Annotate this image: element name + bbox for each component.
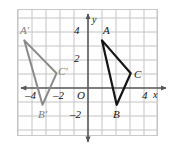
- origin-label: O: [77, 90, 85, 101]
- vertex-label-c: C: [134, 69, 141, 80]
- x-tick-label-4: 4: [142, 90, 148, 101]
- y-tick-label-2: 2: [74, 53, 80, 64]
- y-tick-label-neg2: –2: [70, 109, 81, 120]
- x-tick-label-neg4: –4: [25, 90, 36, 101]
- vertex-label-a-prime: A′: [20, 25, 29, 36]
- vertex-label-b-prime: B′: [38, 109, 47, 120]
- vertex-label-c-prime: C′: [58, 66, 68, 77]
- y-axis-name: y: [92, 15, 96, 25]
- y-tick-label-4: 4: [74, 25, 80, 36]
- vertex-label-a: A: [103, 25, 110, 36]
- x-tick-label-neg2: –2: [53, 90, 64, 101]
- x-axis-name: x: [153, 90, 157, 100]
- vertex-label-b: B: [113, 109, 120, 120]
- coordinate-plane-svg: [0, 0, 175, 145]
- coordinate-plane-figure: 4 2 –2 –4 –2 4 O y x A B C A′ B′ C′: [0, 0, 175, 145]
